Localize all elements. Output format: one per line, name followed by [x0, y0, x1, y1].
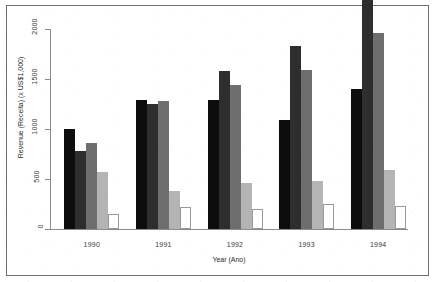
bar-group-1994 [351, 20, 406, 229]
bar-1990-series-2 [75, 151, 86, 229]
bar-1991-series-2 [147, 104, 158, 229]
x-axis-title: Year (Ano) [50, 256, 408, 263]
bar-1993-series-3 [301, 70, 312, 229]
y-axis-title: Revenue (Receita) (x US$1,000) [17, 13, 24, 203]
bar-group-1993 [279, 20, 334, 229]
bar-1993-series-5 [323, 204, 334, 229]
y-tick-mark [45, 229, 50, 230]
y-tick-label: 0 [0, 223, 42, 230]
bar-1991-series-4 [169, 191, 180, 229]
bar-1992-series-5 [252, 209, 263, 229]
bar-1994-series-3 [373, 33, 384, 229]
bar-group-1991 [136, 20, 191, 229]
bar-1991-series-5 [180, 207, 191, 229]
bar-1994-series-1 [351, 89, 362, 229]
bar-1992-series-1 [208, 100, 219, 229]
bar-1991-series-1 [136, 100, 147, 229]
bar-1992-series-3 [230, 85, 241, 229]
x-axis-line [50, 229, 408, 230]
bar-1992-series-2 [219, 71, 230, 229]
bar-1992-series-4 [241, 183, 252, 229]
bar-group-1992 [208, 20, 263, 229]
bar-1993-series-1 [279, 120, 290, 229]
bar-1994-series-5 [395, 206, 406, 229]
x-tick-label-1990: 1990 [62, 241, 122, 248]
bar-1990-series-1 [64, 129, 75, 229]
x-tick-label-1991: 1991 [133, 241, 193, 248]
bar-1991-series-3 [158, 101, 169, 229]
bar-1993-series-4 [312, 181, 323, 229]
x-tick-label-1992: 1992 [205, 241, 265, 248]
chart-figure: 0500100015002000 19901991199219931994 Re… [0, 0, 435, 282]
x-tick-label-1993: 1993 [277, 241, 337, 248]
bar-1994-series-2 [362, 0, 373, 229]
x-tick-label-1994: 1994 [348, 241, 408, 248]
plot-area [50, 20, 408, 229]
bar-1990-series-3 [86, 143, 97, 229]
bar-1994-series-4 [384, 170, 395, 229]
bar-1990-series-5 [108, 214, 119, 229]
bar-1993-series-2 [290, 46, 301, 229]
bar-1990-series-4 [97, 172, 108, 229]
bar-group-1990 [64, 20, 119, 229]
